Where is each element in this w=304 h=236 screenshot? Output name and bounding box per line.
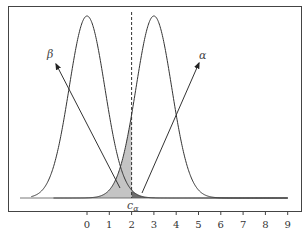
x-tick-label: 8 (262, 219, 268, 230)
x-tick-label: 0 (84, 219, 90, 230)
x-tick-label: 7 (240, 219, 246, 230)
x-axis: 0123456789 (84, 211, 291, 230)
hypothesis-test-diagram: β α cα 0123456789 (0, 0, 304, 236)
x-tick-label: 4 (173, 219, 179, 230)
beta-label: β (46, 48, 53, 61)
x-tick-label: 3 (151, 219, 157, 230)
alpha-label: α (199, 49, 207, 62)
x-tick-label: 5 (195, 219, 201, 230)
x-tick-label: 6 (218, 219, 224, 230)
plot-frame (9, 7, 302, 212)
x-tick-label: 2 (128, 219, 134, 230)
x-tick-label: 1 (106, 219, 112, 230)
x-tick-label: 9 (285, 219, 291, 230)
